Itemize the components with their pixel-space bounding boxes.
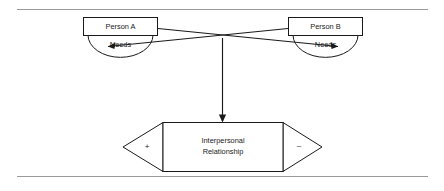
relationship-negative-triangle bbox=[283, 123, 322, 172]
negative-sign-label: – bbox=[297, 141, 302, 150]
relationship-label-line1: Interpersonal bbox=[201, 136, 244, 145]
person-a-label: Person A bbox=[106, 22, 136, 31]
connector-crossing-to-relationship-arrowhead bbox=[219, 115, 226, 123]
relationship-label-line2: Relationship bbox=[203, 147, 244, 156]
interpersonal-relationship-diagram: Person A Needs Person B Needs + – Interp… bbox=[0, 0, 444, 191]
positive-sign-label: + bbox=[145, 142, 150, 151]
relationship-positive-triangle bbox=[123, 123, 163, 172]
diagram-canvas: Person A Needs Person B Needs + – Interp… bbox=[0, 0, 444, 191]
person-b-label: Person B bbox=[310, 22, 340, 31]
